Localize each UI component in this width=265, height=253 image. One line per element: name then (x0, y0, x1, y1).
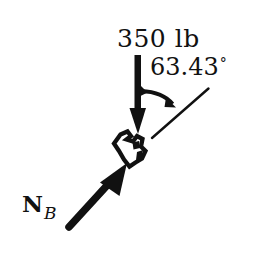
applied-load-arrow-head (130, 108, 147, 134)
reaction-subscript: B (43, 203, 57, 223)
applied-load-arrow-shaft (135, 55, 142, 113)
reaction-symbol: N (22, 190, 43, 217)
reaction-force-arrow (69, 163, 127, 227)
free-body-diagram: 350 lb 63.43° NB (0, 0, 265, 253)
reaction-force-label: NB (22, 192, 57, 222)
pin-clevis-support (114, 132, 146, 167)
degree-symbol: ° (219, 55, 227, 71)
angle-label: 63.43° (150, 55, 227, 79)
reaction-force-arrow-shaft (69, 180, 112, 227)
angle-arc (140, 86, 177, 108)
applied-load-label: 350 lb (117, 26, 200, 51)
pin-clevis-pin (133, 141, 141, 150)
applied-load-arrow (130, 55, 147, 134)
pin-clevis-outline (114, 132, 146, 167)
angle-value: 63.43 (150, 53, 219, 81)
